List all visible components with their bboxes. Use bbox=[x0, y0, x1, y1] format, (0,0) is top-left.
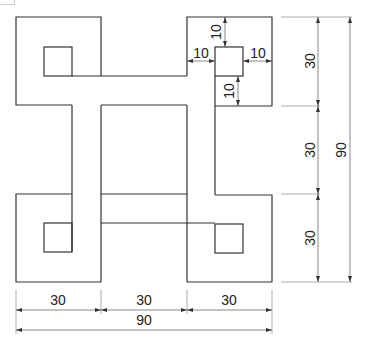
arrow-head bbox=[243, 59, 249, 63]
drawing-geometry bbox=[16, 17, 272, 282]
dim-label-right-2: 30 bbox=[302, 142, 318, 158]
bottom-right-inner-square bbox=[215, 224, 243, 253]
bottom-left-inner-square bbox=[44, 223, 72, 252]
arrow-head bbox=[223, 17, 227, 23]
arrow-head bbox=[16, 308, 22, 312]
top-right-inner-square bbox=[215, 47, 243, 76]
arrow-head bbox=[316, 276, 320, 282]
dim-label-bottom-1: 30 bbox=[50, 292, 66, 308]
bottom-right-outer-square bbox=[187, 195, 272, 282]
dim-label-detail-bottom: 10 bbox=[221, 83, 237, 99]
dim-label-bottom-2: 30 bbox=[136, 292, 152, 308]
arrow-head bbox=[187, 308, 193, 312]
arrow-head bbox=[316, 100, 320, 106]
arrow-head bbox=[348, 276, 352, 282]
dim-label-detail-top: 10 bbox=[208, 24, 224, 40]
arrow-head bbox=[266, 308, 272, 312]
arrow-head bbox=[16, 328, 22, 332]
arrow-head bbox=[187, 59, 193, 63]
dim-label-bottom-total: 90 bbox=[136, 312, 152, 328]
arrow-head bbox=[101, 308, 107, 312]
technical-drawing: 10 10 10 10 30 30 30 90 bbox=[0, 0, 370, 350]
arrow-head bbox=[316, 106, 320, 112]
top-left-outer-square bbox=[16, 17, 187, 105]
top-left-inner-square bbox=[44, 47, 72, 76]
bottom-dimensions: 30 30 30 90 bbox=[16, 290, 272, 334]
arrow-head bbox=[236, 76, 240, 82]
arrow-head bbox=[266, 59, 272, 63]
arrow-head bbox=[316, 188, 320, 194]
arrow-head bbox=[95, 308, 101, 312]
right-dimensions: 30 30 30 90 bbox=[281, 17, 352, 282]
arrow-head bbox=[316, 194, 320, 200]
dim-label-right-1: 30 bbox=[302, 53, 318, 69]
arrow-head bbox=[181, 308, 187, 312]
arrow-head bbox=[316, 17, 320, 23]
arrow-head bbox=[209, 59, 215, 63]
dim-label-right-total: 90 bbox=[333, 142, 349, 158]
arrow-head bbox=[223, 41, 227, 47]
arrow-head bbox=[348, 17, 352, 23]
dim-label-detail-right: 10 bbox=[250, 45, 266, 61]
dim-label-bottom-3: 30 bbox=[221, 292, 237, 308]
dim-label-detail-left: 10 bbox=[193, 45, 209, 61]
arrow-head bbox=[236, 100, 240, 106]
dim-label-right-3: 30 bbox=[302, 230, 318, 246]
detail-dimensions: 10 10 10 10 bbox=[187, 17, 272, 106]
arrow-head bbox=[266, 328, 272, 332]
bottom-left-outer-square bbox=[16, 194, 101, 282]
